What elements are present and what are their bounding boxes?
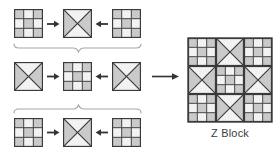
unit-hourglass <box>63 9 92 38</box>
z-cell-hourglass <box>244 66 272 94</box>
unit-hourglass <box>63 118 92 147</box>
unit-row-2 <box>14 62 141 91</box>
z-block-diagram: Z Block <box>0 0 278 159</box>
z-block-result <box>188 38 272 122</box>
arrow-right-icon <box>47 73 60 79</box>
result-arrow-icon <box>152 73 179 80</box>
brace-row-3 <box>14 105 141 113</box>
z-cell-nine-patch <box>244 94 272 122</box>
unit-nine-patch <box>14 118 43 147</box>
arrow-left-icon <box>96 129 109 135</box>
unit-hourglass <box>14 62 43 91</box>
brace-row-1 <box>14 44 141 52</box>
arrow-left-icon <box>96 21 109 27</box>
z-cell-hourglass <box>188 66 216 94</box>
arrow-right-icon <box>47 21 60 27</box>
z-block-label: Z Block <box>186 127 274 140</box>
unit-hourglass <box>112 62 141 91</box>
z-cell-nine-patch <box>244 38 272 66</box>
z-cell-nine-patch <box>188 38 216 66</box>
unit-nine-patch <box>63 62 92 91</box>
arrow-left-icon <box>96 73 109 79</box>
z-cell-nine-patch <box>188 94 216 122</box>
arrow-right-icon <box>47 129 60 135</box>
unit-nine-patch <box>112 9 141 38</box>
unit-nine-patch <box>112 118 141 147</box>
z-cell-hourglass <box>216 94 244 122</box>
unit-row-3 <box>14 118 141 147</box>
z-cell-hourglass <box>216 38 244 66</box>
z-cell-nine-patch <box>216 66 244 94</box>
unit-nine-patch <box>14 9 43 38</box>
unit-row-1 <box>14 9 141 38</box>
